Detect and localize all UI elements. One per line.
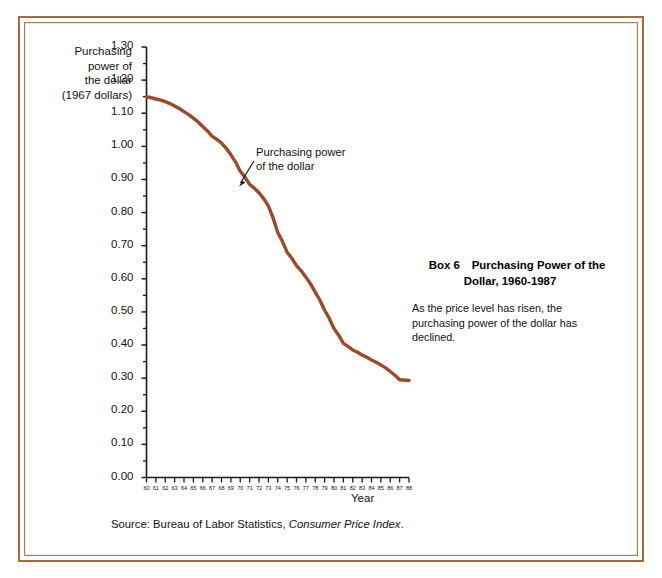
data-series-line [147, 97, 410, 381]
source-note: Source: Bureau of Labor Statistics, Cons… [111, 518, 404, 530]
y-tick-label: 0.00 [94, 470, 134, 482]
chart-figure: Purchasing power of the dollar (1967 dol… [0, 0, 662, 578]
caption-heading: Box 6Purchasing Power of the Dollar, 196… [412, 258, 608, 289]
y-tick-label: 0.10 [94, 436, 134, 448]
x-tick-label: 88 [400, 485, 418, 491]
caption-title-line-1: Box 6Purchasing Power of the [426, 258, 608, 274]
y-tick-label: 1.20 [94, 72, 134, 84]
series-annotation-line-2: of the dollar [256, 159, 346, 173]
caption-body-text: As the price level has risen, the purcha… [412, 301, 608, 345]
y-tick-label: 1.30 [94, 39, 134, 51]
series-annotation-label: Purchasing power of the dollar [256, 145, 346, 173]
source-prefix: Source: Bureau of Labor Statistics, [111, 518, 286, 530]
y-tick-label: 0.40 [94, 337, 134, 349]
caption-title-line-2: Dollar, 1960-1987 [412, 274, 608, 290]
y-tick-label: 0.80 [94, 205, 134, 217]
source-suffix: . [400, 518, 403, 530]
y-tick-label: 0.50 [94, 304, 134, 316]
series-annotation-line-1: Purchasing power [256, 145, 346, 159]
y-tick-label: 0.60 [94, 271, 134, 283]
y-tick-label: 0.30 [94, 370, 134, 382]
caption-block: Box 6Purchasing Power of the Dollar, 196… [412, 258, 608, 345]
caption-box-label: Box 6 [429, 259, 460, 271]
y-tick-label: 1.10 [94, 105, 134, 117]
source-publication-title: Consumer Price Index [289, 518, 401, 530]
y-tick-label: 0.20 [94, 403, 134, 415]
y-tick-label: 0.70 [94, 238, 134, 250]
caption-title-text-1: Purchasing Power of the [472, 259, 606, 271]
y-tick-label: 1.00 [94, 138, 134, 150]
y-tick-label: 0.90 [94, 171, 134, 183]
x-axis-title: Year [351, 492, 374, 504]
